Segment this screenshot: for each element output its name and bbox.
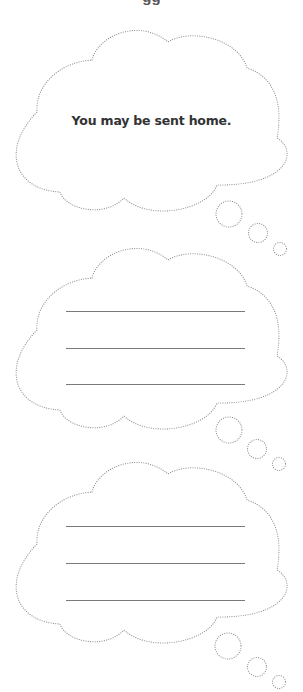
thought-trail-medium xyxy=(248,658,267,677)
thought-cloud-icon xyxy=(0,432,303,692)
writing-line-1[interactable] xyxy=(66,526,245,527)
thought-bubble-3 xyxy=(0,432,303,692)
thought-trail-small xyxy=(273,676,286,689)
bubble-statement: You may be sent home. xyxy=(0,113,303,128)
thought-trail-large xyxy=(215,633,241,659)
writing-line-3[interactable] xyxy=(66,384,245,385)
writing-line-1[interactable] xyxy=(66,311,245,312)
writing-line-3[interactable] xyxy=(66,600,245,601)
writing-line-2[interactable] xyxy=(66,348,245,349)
writing-line-2[interactable] xyxy=(66,563,245,564)
